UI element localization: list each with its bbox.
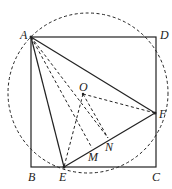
segment-oe	[64, 94, 83, 167]
label-f: F	[159, 108, 166, 120]
label-a: A	[20, 29, 27, 41]
label-o: O	[79, 81, 88, 93]
label-d: D	[160, 29, 169, 41]
label-b: B	[28, 171, 35, 183]
segment-af	[31, 37, 155, 113]
segment-ae	[31, 37, 64, 167]
label-n: N	[105, 141, 113, 153]
label-e: E	[59, 171, 66, 183]
label-m: M	[88, 151, 98, 163]
geometry-diagram: A D B C E F O M N	[0, 0, 172, 189]
segment-of	[83, 94, 155, 113]
segment-on	[83, 94, 108, 138]
label-c: C	[152, 171, 160, 183]
segment-an	[31, 37, 108, 138]
